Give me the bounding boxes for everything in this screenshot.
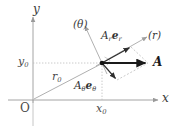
y0-subscript: 0 bbox=[24, 61, 28, 69]
parallelogram-side-top bbox=[131, 47, 148, 63]
origin-label: O bbox=[20, 102, 30, 114]
angular-coefficient-subscript: θ bbox=[82, 85, 86, 93]
radial-basis-subscript: r bbox=[118, 35, 121, 43]
angular-component-label: Aθeθ bbox=[74, 80, 96, 91]
angular-component-arrow bbox=[102, 63, 116, 79]
radial-component-arrow bbox=[102, 48, 130, 63]
r0-subscript: 0 bbox=[57, 76, 61, 84]
parallelogram-side-bottom bbox=[117, 63, 148, 80]
r-direction-label: (r) bbox=[148, 30, 161, 41]
r0-label: r0 bbox=[52, 71, 62, 82]
radial-component-label: Arer bbox=[101, 30, 122, 41]
vector-decomposition-figure: y x O y0 x0 r0 (θ) (r) Arer Aθeθ A bbox=[0, 0, 174, 133]
y0-tick-label: y0 bbox=[18, 56, 29, 67]
y-axis-label: y bbox=[33, 3, 40, 15]
theta-direction-label: (θ) bbox=[73, 19, 88, 30]
x0-tick-label: x0 bbox=[96, 103, 107, 114]
x-axis-label: x bbox=[162, 92, 169, 104]
angular-basis-subscript: θ bbox=[92, 85, 96, 93]
point-marker bbox=[100, 61, 105, 66]
radial-coefficient-subscript: r bbox=[109, 35, 112, 43]
x0-subscript: 0 bbox=[102, 108, 106, 116]
angular-coefficient: A bbox=[74, 79, 82, 91]
vector-A-label: A bbox=[153, 56, 162, 68]
radial-coefficient: A bbox=[101, 29, 109, 41]
